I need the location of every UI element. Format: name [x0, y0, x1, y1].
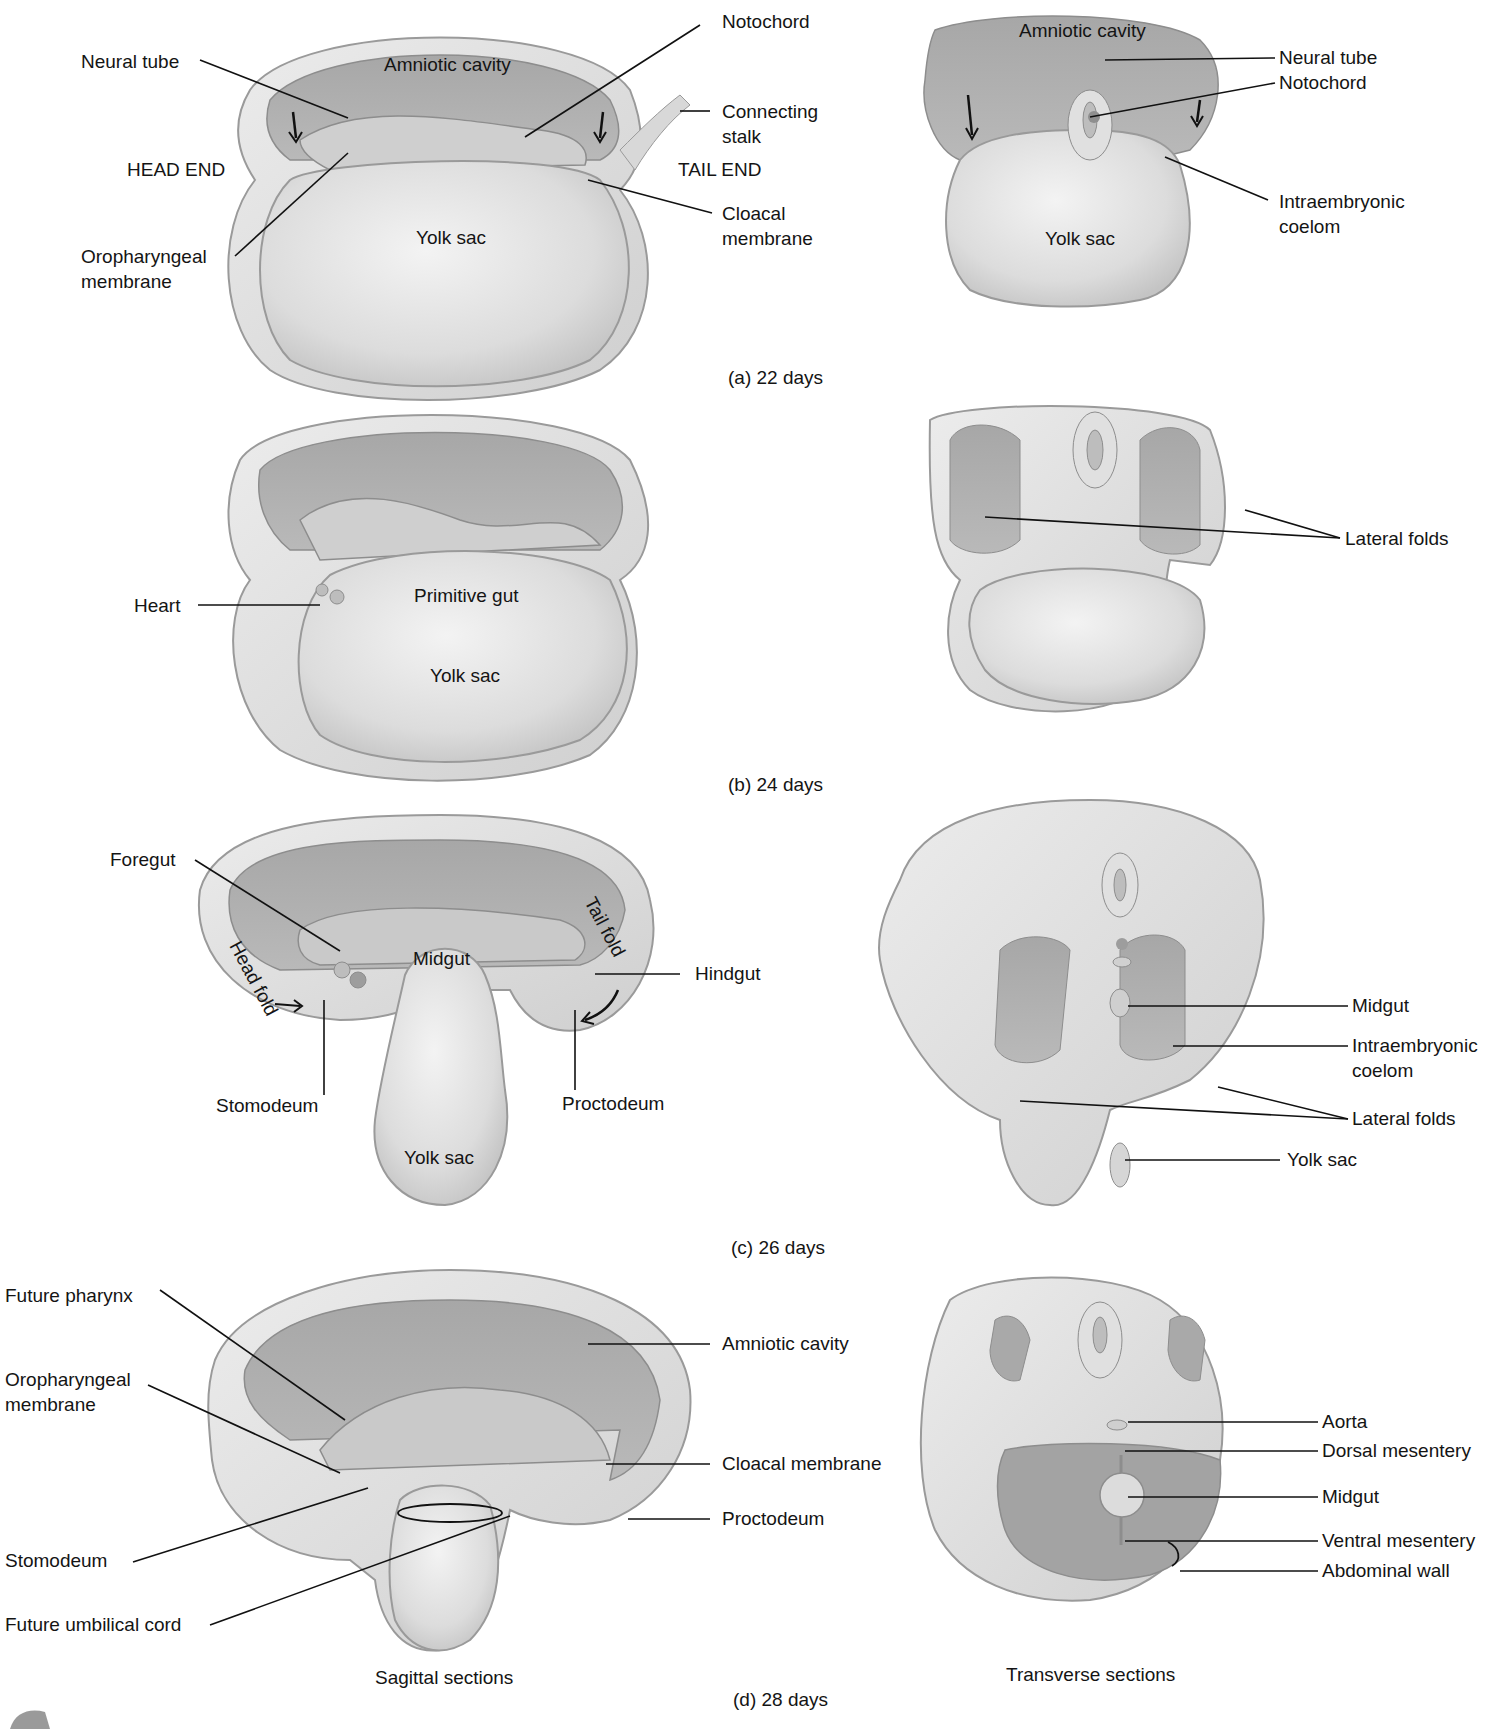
label-c-t-lateral-folds: Lateral folds	[1352, 1107, 1456, 1131]
label-a-head-end: HEAD END	[127, 158, 225, 182]
label-d-amniotic-cavity: Amniotic cavity	[722, 1332, 849, 1356]
panel-d-transverse-drawing	[921, 1278, 1223, 1601]
label-d-future-umbilical-cord: Future umbilical cord	[5, 1613, 181, 1637]
caption-panel-b: (b) 24 days	[728, 773, 823, 797]
panel-c-transverse-drawing	[879, 800, 1263, 1205]
label-c-midgut: Midgut	[413, 947, 470, 971]
label-b-heart: Heart	[134, 594, 180, 618]
label-a-amniotic-cavity: Amniotic cavity	[384, 53, 511, 77]
caption-panel-d: (d) 28 days	[733, 1688, 828, 1712]
caption-panel-c: (c) 26 days	[731, 1236, 825, 1260]
label-c-foregut: Foregut	[110, 848, 175, 872]
label-a-cloacal-line1: Cloacal	[722, 202, 785, 226]
label-d-t-midgut: Midgut	[1322, 1485, 1379, 1509]
label-c-t-intraembryonic-line2: coelom	[1352, 1059, 1413, 1083]
label-d-stomodeum: Stomodeum	[5, 1549, 107, 1573]
panel-d-sagittal-drawing	[208, 1270, 690, 1650]
label-a-connecting-stalk-line1: Connecting	[722, 100, 818, 124]
label-c-t-intraembryonic-line1: Intraembryonic	[1352, 1034, 1478, 1058]
label-c-t-midgut: Midgut	[1352, 994, 1409, 1018]
label-d-t-abdominal-wall: Abdominal wall	[1322, 1559, 1450, 1583]
caption-panel-a: (a) 22 days	[728, 366, 823, 390]
label-a-t-amniotic-cavity: Amniotic cavity	[1019, 19, 1146, 43]
label-c-proctodeum: Proctodeum	[562, 1092, 664, 1116]
label-d-oropharyngeal-line2: membrane	[5, 1393, 96, 1417]
label-a-cloacal-line2: membrane	[722, 227, 813, 251]
label-a-tail-end: TAIL END	[678, 158, 761, 182]
label-b-yolk-sac: Yolk sac	[430, 664, 500, 688]
label-a-neural-tube: Neural tube	[81, 50, 179, 74]
label-a-t-neural-tube: Neural tube	[1279, 46, 1377, 70]
label-d-t-ventral-mesentery: Ventral mesentery	[1322, 1529, 1475, 1553]
label-d-cloacal-membrane: Cloacal membrane	[722, 1452, 881, 1476]
label-d-oropharyngeal-line1: Oropharyngeal	[5, 1368, 131, 1392]
label-d-t-aorta: Aorta	[1322, 1410, 1367, 1434]
label-d-t-dorsal-mesentery: Dorsal mesentery	[1322, 1439, 1471, 1463]
label-a-oropharyngeal-line2: membrane	[81, 270, 172, 294]
label-a-notochord: Notochord	[722, 10, 810, 34]
label-c-hindgut: Hindgut	[695, 962, 761, 986]
label-b-primitive-gut: Primitive gut	[414, 584, 519, 608]
label-a-t-yolk-sac: Yolk sac	[1045, 227, 1115, 251]
label-c-yolk-sac: Yolk sac	[404, 1146, 474, 1170]
label-c-stomodeum: Stomodeum	[216, 1094, 318, 1118]
label-a-t-intraembryonic-line2: coelom	[1279, 215, 1340, 239]
label-c-t-yolk-sac: Yolk sac	[1287, 1148, 1357, 1172]
label-d-future-pharynx: Future pharynx	[5, 1284, 133, 1308]
label-b-lateral-folds: Lateral folds	[1345, 527, 1449, 551]
corner-decoration	[10, 1711, 50, 1729]
label-d-proctodeum: Proctodeum	[722, 1507, 824, 1531]
panel-b-transverse-drawing	[930, 406, 1225, 711]
label-a-t-notochord: Notochord	[1279, 71, 1367, 95]
column-title-sagittal: Sagittal sections	[375, 1666, 513, 1690]
panel-a-sagittal-drawing	[228, 38, 690, 401]
column-title-transverse: Transverse sections	[1006, 1663, 1175, 1687]
label-a-t-intraembryonic-line1: Intraembryonic	[1279, 190, 1405, 214]
label-a-connecting-stalk-line2: stalk	[722, 125, 761, 149]
label-a-oropharyngeal-line1: Oropharyngeal	[81, 245, 207, 269]
label-a-yolk-sac: Yolk sac	[416, 226, 486, 250]
